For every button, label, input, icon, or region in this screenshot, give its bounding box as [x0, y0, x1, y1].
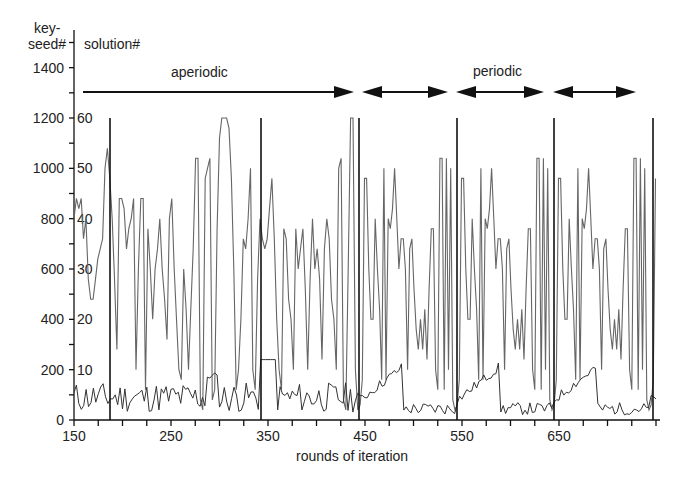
y-tick-label-left: 800: [41, 211, 65, 227]
x-tick-label: 450: [353, 428, 377, 444]
y-tick-label-right: 20: [77, 311, 93, 327]
series-solution: [74, 118, 656, 410]
y-axis-label-left-line2: seed#: [28, 36, 66, 52]
annotation-periodic: periodic: [473, 63, 522, 79]
plot-series: [74, 118, 656, 420]
y-tick-label-left: 0: [56, 412, 64, 428]
y-axis-label-left-line1: key-: [34, 20, 61, 36]
y-tick-label-right: 50: [77, 160, 93, 176]
y-tick-label-right: 10: [77, 362, 93, 378]
x-tick-label: 350: [256, 428, 280, 444]
y-tick-label-left: 1400: [33, 60, 64, 76]
series-key-seed: [74, 360, 656, 415]
annotation-aperiodic: aperiodic: [171, 64, 228, 80]
x-tick-label: 550: [450, 428, 474, 444]
y-tick-label-left: 1000: [33, 160, 64, 176]
x-axis-label: rounds of iteration: [296, 448, 408, 464]
y-tick-label-right: 30: [77, 261, 93, 277]
y-tick-label-left: 400: [41, 311, 65, 327]
x-tick-label: 650: [547, 428, 571, 444]
y-tick-label-right: 60: [77, 110, 93, 126]
y-axis-label-right: solution#: [84, 36, 140, 52]
y-tick-label-left: 1200: [33, 110, 64, 126]
x-tick-label: 250: [159, 428, 183, 444]
y-tick-label-left: 600: [41, 261, 65, 277]
period-arrows: [83, 86, 636, 98]
x-tick-label: 150: [62, 428, 86, 444]
chart: key- seed# solution# rounds of iteration…: [0, 0, 686, 484]
y-tick-label-left: 200: [41, 362, 65, 378]
